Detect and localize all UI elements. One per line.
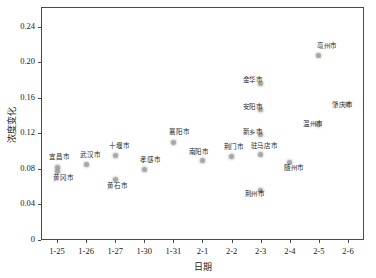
y-tick-mark bbox=[38, 204, 41, 205]
data-point-label: 亳州市 bbox=[317, 40, 337, 50]
data-point-label: 安阳市 bbox=[243, 101, 263, 111]
x-tick-mark bbox=[319, 240, 320, 243]
data-point-label: 黄石市 bbox=[107, 180, 127, 190]
x-tick-mark bbox=[57, 240, 58, 243]
data-point bbox=[316, 53, 321, 58]
data-point bbox=[84, 162, 89, 167]
x-tick-mark bbox=[290, 240, 291, 243]
scatter-chart: 00.040.080.120.160.200.241-251-261-271-3… bbox=[0, 0, 376, 278]
data-point-label: 新乡市 bbox=[243, 126, 263, 136]
data-point-label: 武汉市 bbox=[80, 149, 100, 159]
y-tick-mark bbox=[38, 240, 41, 241]
y-tick-mark bbox=[38, 62, 41, 63]
y-tick-mark bbox=[38, 169, 41, 170]
data-point-label: 荆州市 bbox=[245, 188, 265, 198]
y-tick-label: 0.08 bbox=[0, 163, 35, 173]
data-point-label: 随州市 bbox=[284, 162, 304, 172]
y-axis-title: 浓度变化 bbox=[5, 94, 18, 154]
data-point-label: 宜昌市 bbox=[49, 151, 69, 161]
data-point bbox=[229, 154, 234, 159]
x-tick-mark bbox=[144, 240, 145, 243]
y-tick-label: 0.20 bbox=[0, 56, 35, 66]
data-point-label: 荆门市 bbox=[224, 141, 244, 151]
x-tick-mark bbox=[173, 240, 174, 243]
x-tick-mark bbox=[261, 240, 262, 243]
data-point bbox=[113, 153, 118, 158]
y-tick-label: 0.04 bbox=[0, 198, 35, 208]
y-tick-mark bbox=[38, 27, 41, 28]
data-point-label: 温州市 bbox=[303, 118, 323, 128]
data-point-label: 金华市 bbox=[243, 74, 263, 84]
data-point-label: 南阳市 bbox=[189, 146, 209, 156]
data-point bbox=[171, 140, 176, 145]
x-tick-mark bbox=[232, 240, 233, 243]
x-tick-mark bbox=[348, 240, 349, 243]
y-tick-mark bbox=[38, 133, 41, 134]
y-tick-label: 0 bbox=[0, 234, 35, 244]
y-tick-label: 0.24 bbox=[0, 21, 35, 31]
data-point-label: 黄冈市 bbox=[53, 172, 73, 182]
x-tick-mark bbox=[115, 240, 116, 243]
x-axis-title: 日期 bbox=[163, 260, 243, 273]
data-point-label: 肇庆市 bbox=[332, 99, 352, 109]
y-tick-mark bbox=[38, 98, 41, 99]
x-tick-mark bbox=[202, 240, 203, 243]
data-point-label: 孝感市 bbox=[140, 154, 160, 164]
data-point-label: 十堰市 bbox=[109, 140, 129, 150]
x-tick-label: 2-6 bbox=[328, 246, 368, 256]
x-tick-mark bbox=[86, 240, 87, 243]
data-point-label: 襄阳市 bbox=[169, 126, 189, 136]
data-point-label: 驻马店市 bbox=[251, 140, 278, 150]
